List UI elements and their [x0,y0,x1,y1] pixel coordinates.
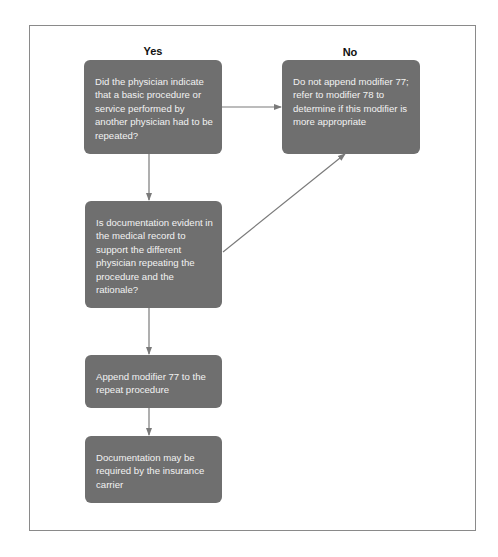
arrow-q2-to-no [223,154,345,252]
flow-arrows [0,0,498,557]
